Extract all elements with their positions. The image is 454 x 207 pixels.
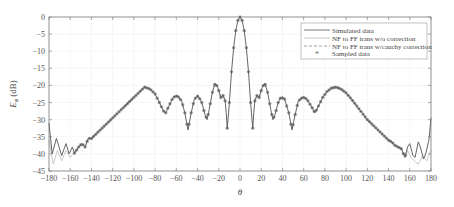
sampled-point-star-icon bbox=[277, 101, 280, 104]
y-axis-label-unit: (dB) bbox=[8, 80, 18, 99]
y-tick-label: −45 bbox=[32, 167, 45, 176]
sampled-point-star-icon bbox=[249, 101, 252, 104]
sampled-point-star-icon bbox=[270, 113, 273, 116]
sampled-point-star-icon bbox=[232, 46, 235, 49]
y-tick-label: 0 bbox=[41, 13, 45, 22]
y-tick-label: −40 bbox=[32, 150, 45, 159]
x-tick-label: 120 bbox=[361, 174, 373, 183]
sampled-point-star-icon bbox=[226, 127, 229, 130]
legend-label-sampled: Sampled data bbox=[332, 50, 371, 58]
x-tick-label: 140 bbox=[383, 174, 395, 183]
x-tick-label: 60 bbox=[300, 174, 308, 183]
x-tick-label: −40 bbox=[191, 174, 204, 183]
x-tick-label: −120 bbox=[104, 174, 121, 183]
sampled-point-star-icon bbox=[296, 104, 299, 107]
sampled-point-star-icon bbox=[317, 104, 320, 107]
sampled-point-star-icon bbox=[287, 111, 290, 114]
sampled-point-star-icon bbox=[224, 99, 227, 102]
x-tick-label: 20 bbox=[257, 174, 265, 183]
sampled-point-star-icon bbox=[402, 152, 405, 155]
sampled-point-star-icon bbox=[170, 98, 173, 101]
sampled-point-star-icon bbox=[228, 101, 231, 104]
sampled-point-star-icon bbox=[243, 29, 246, 32]
sampled-point-star-icon bbox=[158, 101, 161, 104]
legend-label-no-correction: NF to FF trans w/o correction bbox=[332, 35, 416, 43]
sampled-point-star-icon bbox=[230, 70, 233, 73]
x-tick-label: −20 bbox=[213, 174, 226, 183]
legend-label-simulated: Simulated data bbox=[332, 27, 375, 35]
x-tick-label: 40 bbox=[278, 174, 286, 183]
x-axis-label: θ bbox=[238, 187, 243, 197]
sampled-point-star-icon bbox=[198, 97, 201, 100]
sampled-point-star-icon bbox=[285, 104, 288, 107]
legend: Simulated data NF to FF trans w/o correc… bbox=[301, 23, 432, 59]
y-tick-label: −35 bbox=[32, 133, 45, 142]
sampled-point-star-icon bbox=[211, 91, 214, 94]
chart-canvas: −180−160−140−120−100−80−60−40−2002040608… bbox=[0, 0, 454, 207]
sampled-point-star-icon bbox=[207, 113, 210, 116]
sampled-point-star-icon bbox=[160, 105, 163, 108]
sampled-point-star-icon bbox=[266, 91, 269, 94]
sampled-point-star-icon bbox=[294, 113, 297, 116]
sampled-point-star-icon bbox=[156, 97, 159, 100]
x-tick-label: −80 bbox=[149, 174, 162, 183]
sampled-point-star-icon bbox=[181, 103, 184, 106]
sampled-point-star-icon bbox=[251, 127, 254, 130]
x-tick-label: −60 bbox=[170, 174, 183, 183]
sampled-point-star-icon bbox=[183, 111, 186, 114]
x-tick-label: 180 bbox=[425, 174, 437, 183]
sampled-point-star-icon bbox=[234, 29, 237, 32]
x-tick-label: 100 bbox=[340, 174, 352, 183]
x-tick-label: 0 bbox=[238, 174, 242, 183]
y-tick-label: −30 bbox=[32, 116, 45, 125]
x-tick-label: 160 bbox=[404, 174, 416, 183]
sampled-point-star-icon bbox=[260, 89, 263, 92]
sampled-point-star-icon bbox=[274, 109, 277, 112]
sampled-point-star-icon bbox=[202, 109, 205, 112]
y-tick-label: −10 bbox=[32, 47, 45, 56]
sampled-point-star-icon bbox=[86, 140, 89, 143]
sampled-point-star-icon bbox=[217, 89, 220, 92]
sampled-point-star-icon bbox=[245, 46, 248, 49]
y-tick-label: −15 bbox=[32, 64, 45, 73]
sampled-point-star-icon bbox=[200, 101, 203, 104]
x-tick-label: −100 bbox=[126, 174, 143, 183]
sampled-point-star-icon bbox=[190, 111, 193, 114]
y-tick-label: −25 bbox=[32, 99, 45, 108]
y-tick-label: −20 bbox=[32, 81, 45, 90]
y-axis-label: Eφ (dB) bbox=[8, 80, 19, 109]
x-tick-label: −140 bbox=[83, 174, 100, 183]
sampled-point-star-icon bbox=[166, 107, 169, 110]
y-tick-label: −5 bbox=[36, 30, 45, 39]
sampled-point-star-icon bbox=[247, 70, 250, 73]
svg-text:Eφ (dB): Eφ (dB) bbox=[8, 80, 19, 109]
x-tick-label: 80 bbox=[321, 174, 329, 183]
x-tick-label: −160 bbox=[62, 174, 79, 183]
sampled-point-star-icon bbox=[253, 99, 256, 102]
legend-marker-star-icon: * bbox=[315, 50, 319, 59]
